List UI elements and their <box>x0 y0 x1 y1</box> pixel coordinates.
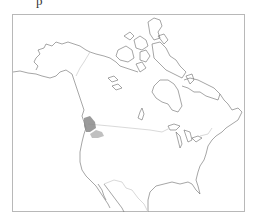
highlighted-range <box>84 116 104 138</box>
north-america-map <box>0 0 258 222</box>
arctic-islands <box>116 18 194 84</box>
range-inland-northwest <box>90 130 104 138</box>
range-coastal-pacific-northwest <box>84 116 96 132</box>
coastlines <box>13 42 242 212</box>
